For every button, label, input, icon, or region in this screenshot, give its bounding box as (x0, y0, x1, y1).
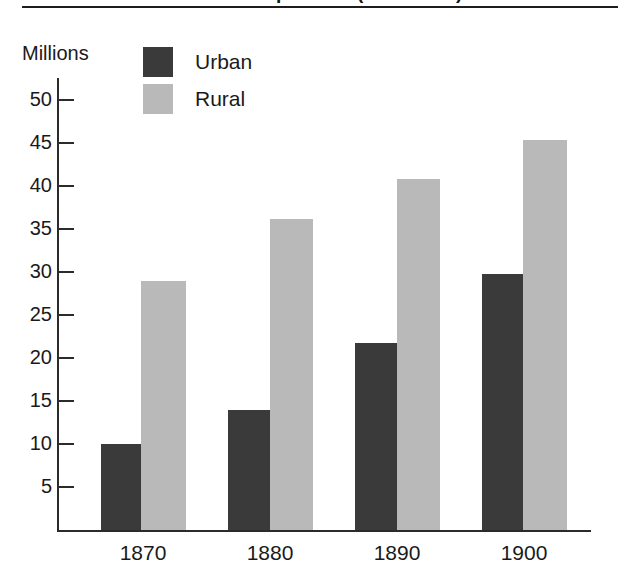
bar-urban-1880 (228, 410, 270, 530)
chart-figure: Urban and Rural Population (1870-1900) M… (0, 0, 639, 584)
x-axis-label-1900: 1900 (474, 541, 574, 565)
plot-area (0, 0, 639, 584)
bar-rural-1890 (397, 179, 440, 530)
bar-rural-1880 (270, 219, 313, 530)
bar-rural-1900 (523, 140, 567, 530)
bar-rural-1870 (141, 281, 186, 530)
legend-label-rural: Rural (195, 87, 245, 111)
bar-urban-1870 (101, 444, 141, 530)
x-axis-label-1880: 1880 (220, 541, 320, 565)
bar-urban-1890 (355, 343, 397, 530)
x-axis-label-1890: 1890 (347, 541, 447, 565)
legend-label-urban: Urban (195, 50, 252, 74)
legend-swatch-rural-icon (143, 84, 173, 114)
x-axis-label-1870: 1870 (93, 541, 193, 565)
legend-swatch-urban-icon (143, 47, 173, 77)
bar-urban-1900 (482, 274, 523, 530)
